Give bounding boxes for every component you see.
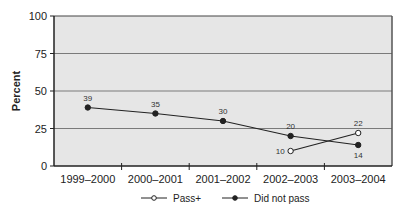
data-label: 39 — [83, 94, 92, 103]
open-circle-marker — [288, 148, 293, 153]
y-tick-label: 0 — [41, 160, 47, 172]
data-label: 22 — [354, 119, 363, 128]
filled-circle-marker — [85, 105, 90, 110]
x-tick-label: 2000–2001 — [128, 173, 183, 185]
filled-circle-marker — [288, 133, 293, 138]
line-chart: 0255075100 1999–20002000–20012001–200220… — [0, 0, 412, 217]
filled-circle-marker — [153, 111, 158, 116]
x-axis: 1999–20002000–20012001–20022002–20032003… — [54, 163, 392, 185]
open-circle-marker — [152, 196, 157, 201]
data-label: 30 — [219, 107, 228, 116]
y-axis: 0255075100 — [29, 10, 54, 172]
data-label: 10 — [276, 147, 285, 156]
x-tick-label: 2001–2002 — [195, 173, 250, 185]
y-axis-title: Percent — [10, 70, 22, 111]
filled-circle-marker — [220, 118, 225, 123]
filled-circle-marker — [233, 196, 238, 201]
open-circle-marker — [356, 130, 361, 135]
data-label: 35 — [151, 100, 160, 109]
x-tick-label: 2003–2004 — [331, 173, 386, 185]
legend: Pass+Did not pass — [141, 193, 310, 204]
y-tick-label: 50 — [35, 85, 47, 97]
y-tick-label: 75 — [35, 48, 47, 60]
data-label: 14 — [354, 151, 363, 160]
x-tick-label: 2002–2003 — [263, 173, 318, 185]
x-tick-label: 1999–2000 — [60, 173, 115, 185]
legend-label: Pass+ — [173, 193, 201, 204]
y-tick-label: 100 — [29, 10, 47, 22]
legend-item-did-not-pass: Did not pass — [222, 193, 310, 204]
data-label: 20 — [286, 122, 295, 131]
y-tick-label: 25 — [35, 123, 47, 135]
legend-item-pass-: Pass+ — [141, 193, 201, 204]
legend-label: Did not pass — [254, 193, 310, 204]
filled-circle-marker — [356, 142, 361, 147]
